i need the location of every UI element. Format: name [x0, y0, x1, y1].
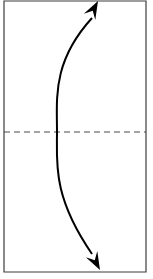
figure-svg [0, 0, 153, 279]
diagram-canvas: Curved double-headed arrow over bisected… [0, 0, 153, 279]
